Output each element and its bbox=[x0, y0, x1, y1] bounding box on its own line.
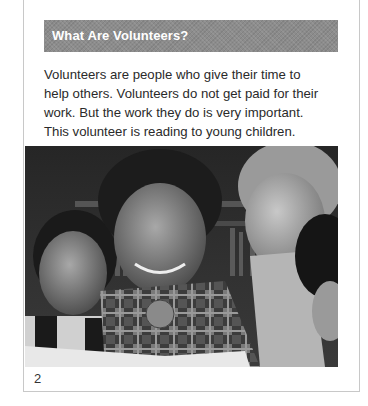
volunteer-reading-photo bbox=[25, 146, 338, 367]
page-frame: What Are Volunteers? Volunteers are peop… bbox=[23, 0, 360, 392]
page-number: 2 bbox=[34, 371, 41, 386]
body-paragraph: Volunteers are people who give their tim… bbox=[44, 65, 344, 141]
photo-illustration bbox=[25, 146, 338, 367]
paragraph-line: work. But the work they do is very impor… bbox=[44, 103, 344, 122]
section-header: What Are Volunteers? bbox=[44, 20, 338, 52]
paragraph-line: This volunteer is reading to young child… bbox=[44, 122, 344, 141]
paragraph-line: Volunteers are people who give their tim… bbox=[44, 65, 344, 84]
section-title: What Are Volunteers? bbox=[52, 28, 188, 43]
paragraph-line: help others. Volunteers do not get paid … bbox=[44, 84, 344, 103]
